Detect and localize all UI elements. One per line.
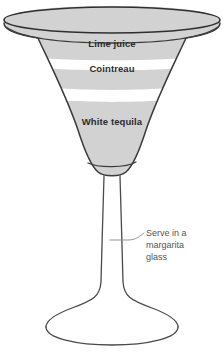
- callout-leader-line: [110, 233, 144, 240]
- stem-left-edge: [46, 176, 104, 327]
- layer-label-lime-juice: Lime juice: [88, 38, 135, 49]
- bowl-liquid-group: [0, 0, 224, 185]
- callout-line-3: glass: [146, 252, 168, 262]
- callout-line-1: Serve in a: [146, 228, 187, 238]
- layer-label-white-tequila: White tequila: [82, 116, 143, 127]
- callout-line-2: margarita: [146, 240, 184, 250]
- layer-label-cointreau: Cointreau: [89, 63, 134, 74]
- glass-foot: [46, 327, 178, 345]
- margarita-glass-illustration: Margarita glass layered drink diagram Li…: [0, 0, 224, 359]
